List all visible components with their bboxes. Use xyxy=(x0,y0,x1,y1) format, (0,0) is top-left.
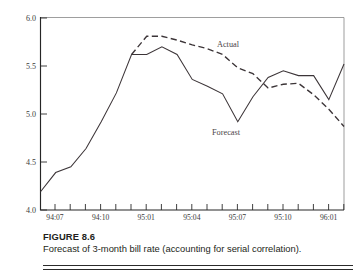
figure-number-label: FIGURE 8.6 xyxy=(43,231,353,242)
plot-axes xyxy=(41,17,345,210)
figure-caption-text: Forecast of 3-month bill rate (accountin… xyxy=(43,243,353,255)
series-annotation-forecast: Forecast xyxy=(212,128,241,137)
y-tick-label-50: 5.0 xyxy=(26,110,36,119)
x-tick-label-9507: 95:07 xyxy=(229,213,247,222)
y-axis-labels: 6.0 5.5 5.0 4.5 4.0 xyxy=(26,14,36,215)
y-tick-label-45: 4.5 xyxy=(26,158,36,167)
caption-divider-rule xyxy=(43,265,353,270)
plot-frame-top-right xyxy=(40,18,344,211)
x-tick-label-9501: 95:01 xyxy=(138,213,156,222)
x-tick-marks xyxy=(55,204,344,210)
series-line-forecast xyxy=(41,47,345,192)
caption-block: FIGURE 8.6 Forecast of 3-month bill rate… xyxy=(43,231,353,255)
x-tick-label-9407: 94:07 xyxy=(46,213,64,222)
x-tick-label-9504: 95:04 xyxy=(183,213,201,222)
x-axis-labels: 94:07 94:10 95:01 95:04 95:07 95:10 96:0… xyxy=(46,213,337,222)
y-tick-label-55: 5.5 xyxy=(26,62,36,71)
y-tick-label-40: 4.0 xyxy=(26,206,36,215)
x-tick-label-9410: 94:10 xyxy=(92,213,110,222)
y-tick-marks xyxy=(41,18,48,210)
figure-container: 6.0 5.5 5.0 4.5 4.0 xyxy=(0,0,364,274)
y-tick-label-60: 6.0 xyxy=(26,14,36,23)
series-annotation-actual: Actual xyxy=(217,40,240,49)
x-tick-label-9601: 96:01 xyxy=(320,213,338,222)
series-line-actual xyxy=(132,36,344,126)
x-tick-label-9510: 95:10 xyxy=(274,213,292,222)
